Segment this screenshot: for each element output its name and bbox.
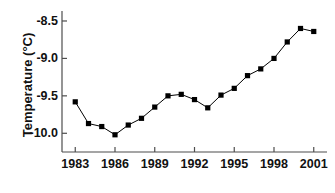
data-point-marker — [165, 93, 170, 98]
data-point-marker — [245, 73, 250, 78]
data-point-marker — [139, 116, 144, 121]
temperature-time-series-chart: Temperature (°C) -10.0-9.5-9.0-8.5 19831… — [0, 0, 335, 193]
data-point-marker — [152, 104, 157, 109]
data-point-marker — [112, 132, 117, 137]
data-point-marker — [298, 26, 303, 31]
data-point-marker — [232, 86, 237, 91]
data-line — [75, 28, 314, 134]
data-point-marker — [205, 105, 210, 110]
data-point-marker — [73, 99, 78, 104]
data-point-marker — [258, 66, 263, 71]
data-point-marker — [99, 124, 104, 129]
data-point-marker — [192, 97, 197, 102]
plot-area — [0, 0, 335, 193]
data-markers — [73, 26, 317, 138]
data-point-marker — [218, 93, 223, 98]
axis-lines — [62, 11, 327, 152]
data-point-marker — [126, 122, 131, 127]
data-point-marker — [311, 29, 316, 34]
tick-marks — [62, 21, 314, 152]
data-point-marker — [86, 121, 91, 126]
data-point-marker — [179, 92, 184, 97]
data-point-marker — [271, 56, 276, 61]
data-point-marker — [285, 39, 290, 44]
